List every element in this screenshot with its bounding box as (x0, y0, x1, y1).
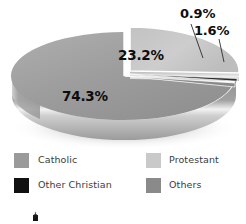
pie-chart-graphic: 74.3% 23.2% 0.9% 1.6% (0, 0, 246, 150)
slice-value-others: 1.6% (194, 23, 229, 38)
legend-item-protestant: Protestant (146, 153, 236, 168)
legend-item-catholic: Catholic (14, 153, 146, 168)
legend-label-catholic: Catholic (38, 155, 77, 165)
legend-label-protestant: Protestant (169, 155, 219, 165)
legend-swatch-icon-other-christian (14, 178, 29, 193)
legend-swatch-icon-catholic (14, 153, 29, 168)
legend-swatch-icon-others (146, 178, 161, 193)
cropped-figure-mark-icon (33, 211, 38, 221)
pie-chart-figure: 74.3% 23.2% 0.9% 1.6% Catholic Protestan… (0, 0, 246, 224)
legend-swatch-icon-protestant (146, 153, 161, 168)
legend-item-other-christian: Other Christian (14, 178, 146, 193)
legend-item-others: Others (146, 178, 236, 193)
legend-label-other-christian: Other Christian (38, 180, 112, 190)
slice-value-catholic: 74.3% (62, 88, 108, 104)
slice-value-other-christian: 0.9% (180, 6, 215, 21)
slice-value-protestant: 23.2% (118, 47, 164, 63)
chart-legend: Catholic Protestant Other Christian Othe… (14, 150, 236, 195)
legend-label-others: Others (169, 180, 202, 190)
